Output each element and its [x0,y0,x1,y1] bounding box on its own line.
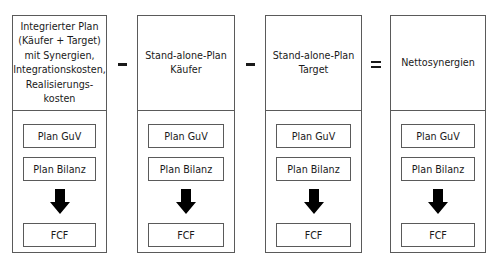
column-integrated-plan: Integrierter Plan (Käufer + Target) mit … [12,15,107,253]
plan-bilanz-box: Plan Bilanz [276,157,351,181]
minus-operator [112,52,132,76]
down-arrow-icon [50,189,70,214]
column-title: Nettosynergien [391,16,485,111]
fcf-box: FCF [401,223,475,247]
fcf-box: FCF [148,223,224,247]
down-arrow-icon [176,189,196,214]
down-arrow-icon [428,189,448,214]
column-title: Stand-alone-Plan Target [266,16,361,111]
fcf-box: FCF [276,223,351,247]
plan-guv-box: Plan GuV [276,124,351,148]
fcf-box: FCF [23,223,96,247]
column-standalone-target: Stand-alone-Plan Target Plan GuV Plan Bi… [265,15,362,253]
plan-bilanz-box: Plan Bilanz [23,157,96,181]
down-arrow-icon [304,189,324,214]
column-standalone-buyer: Stand-alone-Plan Käufer Plan GuV Plan Bi… [137,15,235,253]
minus-icon [246,63,255,66]
plan-guv-box: Plan GuV [148,124,224,148]
column-title: Stand-alone-Plan Käufer [138,16,234,111]
minus-icon [118,63,127,66]
column-title: Integrierter Plan (Käufer + Target) mit … [13,16,106,111]
plan-guv-box: Plan GuV [23,124,96,148]
equals-icon [371,61,381,68]
minus-operator [240,52,260,76]
plan-bilanz-box: Plan Bilanz [401,157,475,181]
plan-guv-box: Plan GuV [401,124,475,148]
plan-bilanz-box: Plan Bilanz [148,157,224,181]
equals-operator [366,52,386,76]
column-net-synergies: Nettosynergien Plan GuV Plan Bilanz FCF [390,15,486,253]
